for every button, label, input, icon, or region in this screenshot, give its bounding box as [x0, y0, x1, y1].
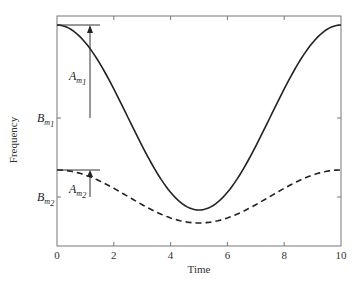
solid-series-line	[57, 25, 341, 210]
arrow-up-icon	[87, 170, 93, 177]
x-tick-label: 10	[336, 249, 348, 261]
x-axis-label: Time	[188, 263, 211, 275]
dashed-series-line	[57, 170, 341, 223]
bm2-label: Bm2	[37, 190, 54, 208]
bm1-label: Bm1	[37, 111, 54, 129]
chart: 0 2 4 6 8 10 Time Frequency Bm1 Bm2 Am1 …	[0, 0, 361, 288]
plot-frame	[57, 16, 341, 246]
x-ticks	[57, 16, 341, 246]
x-tick-label: 8	[281, 249, 287, 261]
y-axis-label: Frequency	[7, 116, 19, 163]
x-tick-label: 4	[168, 249, 174, 261]
x-tick-label: 2	[111, 249, 117, 261]
am1-label: Am1	[68, 69, 86, 87]
x-tick-label: 6	[225, 249, 231, 261]
x-tick-label: 0	[54, 249, 60, 261]
am2-label: Am2	[68, 182, 86, 200]
arrow-up-icon	[87, 25, 93, 33]
